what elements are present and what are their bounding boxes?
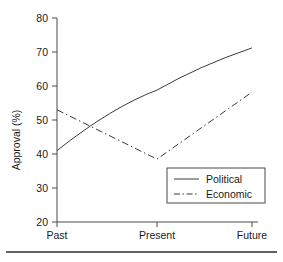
y-tick-label-60: 60	[36, 80, 48, 92]
x-tick-label-past: Past	[46, 229, 67, 241]
legend-label-economic: Economic	[206, 188, 252, 200]
y-tick-label-30: 30	[36, 182, 48, 194]
series-line-political	[57, 48, 252, 151]
y-tick-label-20: 20	[36, 216, 48, 228]
x-tick-label-future: Future	[237, 229, 268, 241]
series-line-economic	[57, 92, 252, 159]
chart-figure: 20 30 40 50 60 70 80 Approval (%) Past P…	[0, 0, 283, 262]
approval-line-chart: 20 30 40 50 60 70 80 Approval (%) Past P…	[0, 0, 283, 262]
y-axis-ticks	[52, 18, 57, 222]
x-tick-label-present: Present	[139, 229, 175, 241]
y-tick-label-70: 70	[36, 46, 48, 58]
x-axis-ticks	[57, 222, 252, 227]
y-axis-title: Approval (%)	[10, 110, 22, 171]
legend-label-political: Political	[206, 173, 242, 185]
y-tick-label-40: 40	[36, 148, 48, 160]
chart-legend: Political Economic	[167, 168, 265, 203]
y-tick-label-80: 80	[36, 12, 48, 24]
y-tick-label-50: 50	[36, 114, 48, 126]
